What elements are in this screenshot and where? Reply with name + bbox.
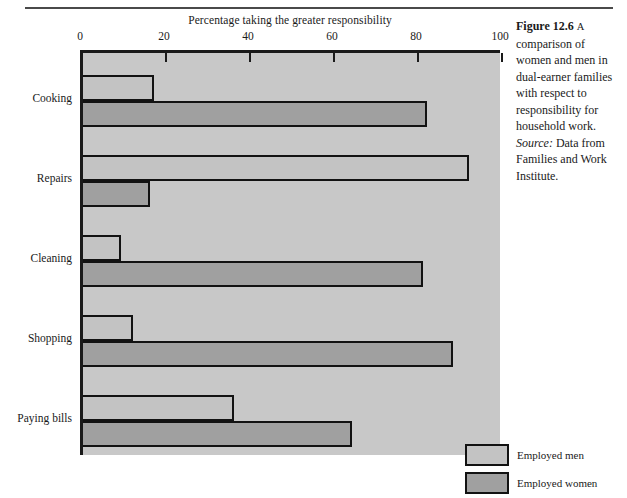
bar-repairs-women [83, 181, 150, 207]
figure-caption: Figure 12.6 A comparison of women and me… [516, 18, 620, 184]
chart-title: Percentage taking the greater responsibi… [80, 14, 500, 26]
legend-swatch-men-icon [465, 444, 509, 466]
chart-legend: Employed men Employed women [465, 443, 585, 498]
x-tick-label: 60 [326, 30, 338, 42]
legend-item-employed-women: Employed women [465, 471, 585, 495]
x-tick-label: 40 [242, 30, 254, 42]
x-tick-mark [501, 53, 503, 62]
bar-cooking-women [83, 101, 427, 127]
plot-area: Employed men Employed women [80, 50, 500, 455]
bar-cleaning-women [83, 261, 423, 287]
bar-shopping-men [83, 315, 133, 341]
x-tick-label: 80 [410, 30, 422, 42]
bar-cleaning-men [83, 235, 121, 261]
category-label-paying-bills: Paying bills [17, 412, 72, 424]
x-tick-label: 20 [158, 30, 170, 42]
legend-label-men: Employed men [517, 449, 584, 461]
legend-label-women: Employed women [517, 477, 597, 489]
x-tick-label: 0 [77, 30, 83, 42]
category-label-cleaning: Cleaning [30, 252, 72, 264]
bar-repairs-men [83, 155, 469, 181]
x-tick-label: 100 [491, 30, 508, 42]
bar-series-layer [83, 53, 500, 455]
bar-shopping-women [83, 341, 453, 367]
category-label-cooking: Cooking [32, 92, 72, 104]
category-label-shopping: Shopping [28, 332, 72, 344]
figure-lead-letter: A [577, 21, 585, 32]
figure-number: Figure 12.6 [516, 19, 574, 33]
legend-item-employed-men: Employed men [465, 443, 585, 467]
legend-swatch-women-icon [465, 472, 509, 494]
bar-paying-bills-men [83, 395, 234, 421]
figure-caption-text: comparison of women and men in dual-earn… [516, 37, 612, 134]
category-label-repairs: Repairs [37, 172, 72, 184]
x-axis-tick-labels: 020406080100 [0, 30, 510, 46]
figure-source-label: Source: [516, 136, 553, 150]
bar-paying-bills-women [83, 421, 352, 447]
bar-cooking-men [83, 75, 154, 101]
chart-area: Percentage taking the greater responsibi… [0, 0, 510, 470]
y-axis-category-labels: CookingRepairsCleaningShoppingPaying bil… [0, 50, 80, 455]
